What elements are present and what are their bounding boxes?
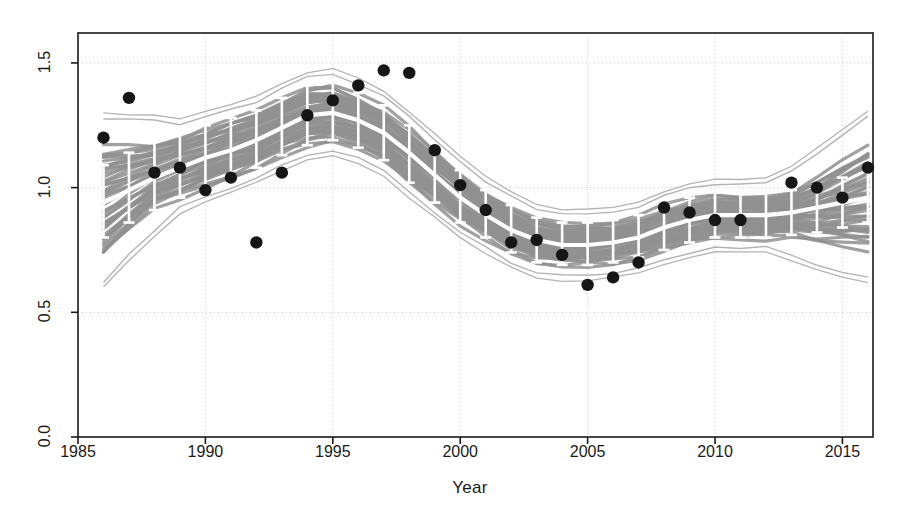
observed-data-point bbox=[97, 132, 109, 144]
observed-data-point bbox=[811, 181, 823, 193]
observed-data-point bbox=[123, 92, 135, 104]
observed-data-point bbox=[250, 236, 262, 248]
observed-data-point bbox=[683, 206, 695, 218]
observed-data-point bbox=[734, 214, 746, 226]
observed-data-point bbox=[479, 204, 491, 216]
observed-data-point bbox=[709, 214, 721, 226]
plot-canvas bbox=[0, 0, 900, 513]
observed-data-point bbox=[607, 271, 619, 283]
observed-data-point bbox=[199, 184, 211, 196]
observed-data-point bbox=[836, 191, 848, 203]
observed-data-point bbox=[454, 179, 466, 191]
observed-data-point bbox=[174, 161, 186, 173]
observed-data-point bbox=[785, 176, 797, 188]
observed-data-point bbox=[530, 234, 542, 246]
observed-data-point bbox=[632, 256, 644, 268]
observed-data-point bbox=[276, 166, 288, 178]
observed-data-point bbox=[581, 279, 593, 291]
observed-data-point bbox=[556, 249, 568, 261]
observed-data-point bbox=[301, 109, 313, 121]
observed-data-point bbox=[327, 94, 339, 106]
observed-data-point bbox=[378, 64, 390, 76]
observed-data-point bbox=[505, 236, 517, 248]
observed-data-point bbox=[429, 144, 441, 156]
observed-data-point bbox=[658, 201, 670, 213]
cpue-time-series-figure: CPUE Year 1985199019952000200520102015 0… bbox=[0, 0, 900, 513]
observed-data-point bbox=[148, 166, 160, 178]
observed-data-point bbox=[352, 79, 364, 91]
observed-data-point bbox=[225, 171, 237, 183]
observed-data-point bbox=[403, 67, 415, 79]
